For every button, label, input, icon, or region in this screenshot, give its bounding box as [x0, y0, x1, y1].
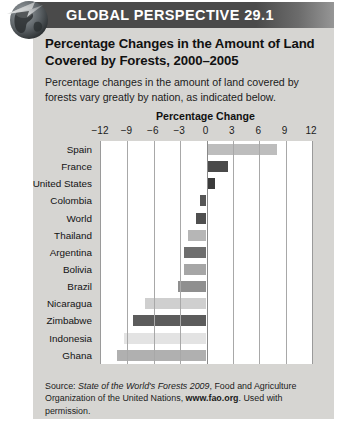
- x-tick-label: 0: [203, 125, 209, 136]
- globe-icon: [5, 0, 55, 41]
- x-tick-label: −12: [92, 125, 109, 136]
- chart-axis-title: Percentage Change: [100, 110, 311, 122]
- x-tick-label: 9: [282, 125, 288, 136]
- zero-gridline: [207, 141, 208, 364]
- bar-ghana: [117, 350, 207, 361]
- category-label: World: [33, 210, 96, 227]
- x-axis-ticks: −12−9−6−3036912: [100, 125, 311, 140]
- bar-world: [196, 213, 207, 224]
- category-label: Spain: [33, 141, 96, 158]
- category-label: Colombia: [33, 192, 96, 209]
- gridline: [233, 141, 234, 364]
- category-label: Zimbabwe: [33, 312, 96, 329]
- bar-zimbabwe: [133, 315, 207, 326]
- category-label: Argentina: [33, 244, 96, 261]
- x-tick-label: −6: [147, 125, 158, 136]
- category-label: Nicaragua: [33, 295, 96, 312]
- category-label: Indonesia: [33, 330, 96, 347]
- figure-description: Percentage changes in the amount of land…: [45, 75, 326, 104]
- gridline: [154, 141, 155, 364]
- bar-united-states: [207, 178, 216, 189]
- global-perspective-figure: GLOBAL PERSPECTIVE 29.1 Percentage Chang…: [0, 0, 337, 426]
- source-note: Source: State of the World's Forests 200…: [45, 380, 327, 417]
- category-label: Brazil: [33, 278, 96, 295]
- banner: GLOBAL PERSPECTIVE 29.1: [33, 2, 334, 28]
- x-tick-label: 6: [255, 125, 261, 136]
- category-labels: SpainFranceUnited StatesColombiaWorldTha…: [33, 141, 96, 364]
- gridline: [286, 141, 287, 364]
- x-tick-label: −3: [173, 125, 184, 136]
- bar-france: [207, 161, 229, 172]
- bar-indonesia: [124, 333, 207, 344]
- category-label: France: [33, 158, 96, 175]
- source-prefix: Source:: [45, 381, 78, 391]
- gridline: [259, 141, 260, 364]
- gridline: [180, 141, 181, 364]
- banner-title: GLOBAL PERSPECTIVE 29.1: [66, 7, 274, 23]
- bar-argentina: [184, 247, 207, 258]
- source-url: www.fao.org: [186, 393, 239, 403]
- bar-chart: Percentage Change −12−9−6−3036912 SpainF…: [33, 110, 334, 375]
- content-panel: Percentage Changes in the Amount of Land…: [33, 28, 334, 419]
- category-label: Ghana: [33, 347, 96, 364]
- category-label: Bolivia: [33, 261, 96, 278]
- gridline: [127, 141, 128, 364]
- source-title: State of the World's Forests 2009: [78, 381, 209, 391]
- bar-thailand: [188, 230, 206, 241]
- figure-title: Percentage Changes in the Amount of Land…: [45, 35, 325, 69]
- x-tick-label: −9: [121, 125, 132, 136]
- x-tick-label: 3: [229, 125, 235, 136]
- plot-area: [100, 141, 313, 364]
- bar-bolivia: [184, 264, 207, 275]
- x-tick-label: 12: [305, 125, 316, 136]
- bar-spain: [207, 144, 277, 155]
- category-label: Thailand: [33, 227, 96, 244]
- category-label: United States: [33, 175, 96, 192]
- bar-brazil: [178, 281, 206, 292]
